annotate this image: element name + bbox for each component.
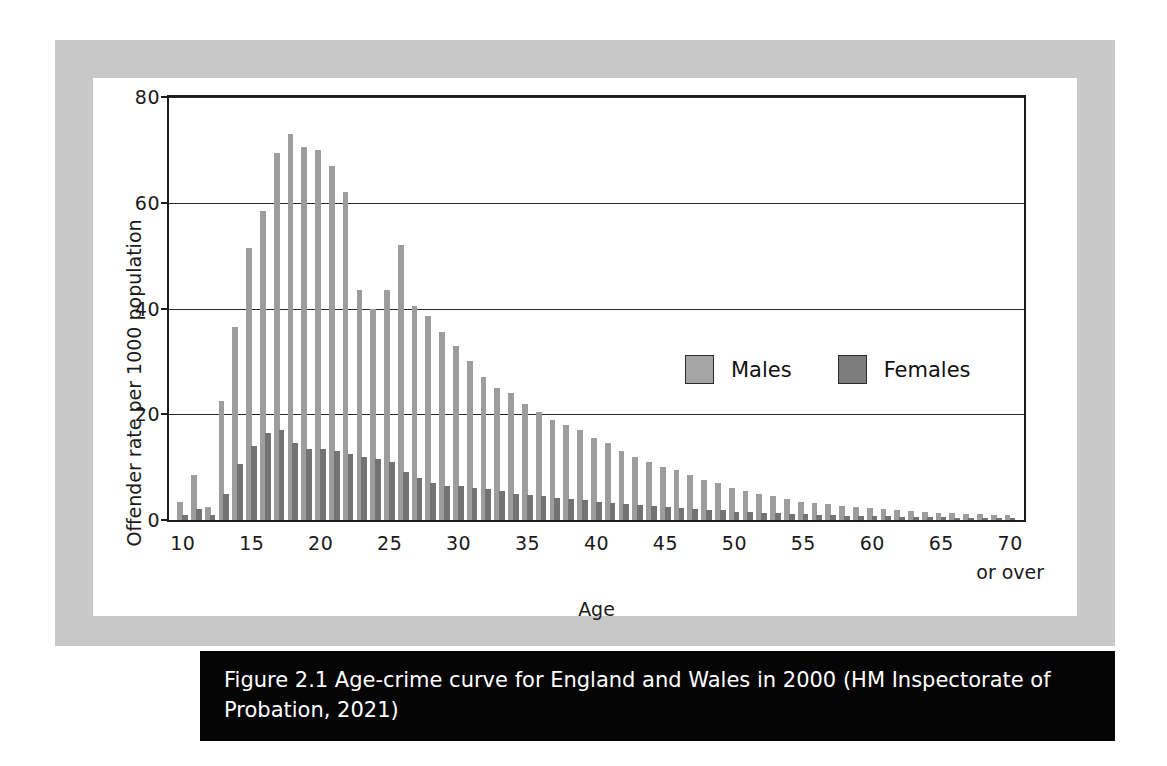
bar-females-age-42 xyxy=(623,504,629,520)
bar-females-age-56 xyxy=(816,515,822,520)
y-tick-mark-60 xyxy=(161,202,169,204)
bar-females-age-21 xyxy=(334,451,340,520)
x-tick-label-30: 30 xyxy=(446,532,471,554)
bar-females-age-57 xyxy=(830,515,836,520)
bar-females-age-62 xyxy=(899,517,905,520)
x-axis-over-note: or over xyxy=(976,561,1044,583)
bar-females-age-12 xyxy=(210,515,216,520)
gridline-80 xyxy=(169,97,1024,98)
bar-females-age-37 xyxy=(554,498,560,520)
gridline-40 xyxy=(169,309,1024,310)
bar-females-age-53 xyxy=(775,513,781,520)
legend-entry-females: Females xyxy=(838,355,971,384)
y-tick-label-20: 20 xyxy=(135,403,160,425)
bar-females-age-22 xyxy=(348,454,354,520)
bar-females-age-13 xyxy=(223,494,229,520)
x-tick-label-25: 25 xyxy=(377,532,402,554)
bar-females-age-14 xyxy=(237,464,243,520)
bar-females-age-31 xyxy=(472,488,478,520)
bar-females-age-43 xyxy=(637,505,643,520)
y-tick-mark-80 xyxy=(161,96,169,98)
y-tick-label-0: 0 xyxy=(147,509,160,531)
bar-females-age-49 xyxy=(720,510,726,520)
bar-females-age-60 xyxy=(872,516,878,520)
bar-females-age-64 xyxy=(927,517,933,520)
bar-females-age-26 xyxy=(403,472,409,520)
bar-females-age-61 xyxy=(885,516,891,520)
y-tick-label-60: 60 xyxy=(135,192,160,214)
bar-females-age-34 xyxy=(513,494,519,520)
x-tick-label-35: 35 xyxy=(515,532,540,554)
bar-females-age-36 xyxy=(541,496,547,520)
bar-females-age-51 xyxy=(747,512,753,520)
chart-canvas: Offender rate per 1000 population 020406… xyxy=(93,78,1077,616)
bar-females-age-52 xyxy=(761,513,767,520)
bar-females-age-15 xyxy=(251,446,257,520)
legend-label-females: Females xyxy=(884,358,971,382)
x-tick-label-45: 45 xyxy=(653,532,678,554)
bar-females-age-44 xyxy=(651,506,657,520)
bar-females-age-66 xyxy=(954,518,960,520)
x-tick-label-50: 50 xyxy=(722,532,747,554)
bar-females-age-27 xyxy=(417,478,423,520)
bar-females-age-68 xyxy=(982,518,988,520)
bar-females-age-38 xyxy=(568,499,574,520)
legend-swatch-males xyxy=(685,355,714,384)
x-tick-label-20: 20 xyxy=(308,532,333,554)
bar-females-age-70 xyxy=(1010,518,1016,520)
bar-females-age-65 xyxy=(941,517,947,520)
figure-frame: Offender rate per 1000 population 020406… xyxy=(55,40,1115,646)
bar-females-age-32 xyxy=(485,489,491,520)
x-axis-title: Age xyxy=(578,598,615,620)
x-tick-label-60: 60 xyxy=(860,532,885,554)
y-tick-label-80: 80 xyxy=(135,86,160,108)
plot-area: 020406080 10152025303540455055606570 or … xyxy=(167,95,1026,522)
bar-females-age-20 xyxy=(320,449,326,520)
x-tick-label-65: 65 xyxy=(929,532,954,554)
bar-females-age-63 xyxy=(913,517,919,520)
y-tick-mark-40 xyxy=(161,308,169,310)
bar-females-age-39 xyxy=(582,500,588,520)
bar-females-age-58 xyxy=(844,516,850,520)
x-tick-label-70: 70 xyxy=(998,532,1023,554)
x-tick-label-15: 15 xyxy=(239,532,264,554)
bar-females-age-50 xyxy=(734,512,740,520)
y-tick-label-40: 40 xyxy=(135,298,160,320)
y-tick-mark-0 xyxy=(161,519,169,521)
x-tick-label-10: 10 xyxy=(170,532,195,554)
y-axis-title: Offender rate per 1000 population xyxy=(123,173,145,593)
bar-females-age-48 xyxy=(706,510,712,520)
bar-females-age-55 xyxy=(803,514,809,520)
chart-legend: MalesFemales xyxy=(685,355,971,384)
bar-females-age-33 xyxy=(499,491,505,520)
bar-females-age-67 xyxy=(968,518,974,520)
x-tick-label-40: 40 xyxy=(584,532,609,554)
bar-females-age-17 xyxy=(279,430,285,520)
bar-females-age-25 xyxy=(389,462,395,520)
legend-entry-males: Males xyxy=(685,355,792,384)
bar-females-age-23 xyxy=(361,457,367,520)
figure-caption: Figure 2.1 Age-crime curve for England a… xyxy=(200,651,1115,741)
y-tick-mark-20 xyxy=(161,413,169,415)
bar-females-age-46 xyxy=(679,508,685,520)
bar-females-age-54 xyxy=(789,514,795,520)
figure-caption-text: Figure 2.1 Age-crime curve for England a… xyxy=(224,668,1051,722)
bar-females-age-10 xyxy=(182,515,188,520)
bar-females-age-19 xyxy=(306,449,312,520)
bar-females-age-59 xyxy=(858,516,864,520)
bar-females-age-30 xyxy=(458,486,464,520)
bar-females-age-47 xyxy=(692,509,698,520)
bar-females-age-40 xyxy=(596,502,602,521)
bar-females-age-29 xyxy=(444,486,450,520)
bar-females-age-16 xyxy=(265,433,271,520)
legend-swatch-females xyxy=(838,355,867,384)
bar-females-age-28 xyxy=(430,483,436,520)
bar-females-age-18 xyxy=(292,443,298,520)
legend-label-males: Males xyxy=(731,358,792,382)
x-tick-label-55: 55 xyxy=(791,532,816,554)
bar-females-age-11 xyxy=(196,509,202,520)
bar-females-age-41 xyxy=(610,503,616,520)
bar-females-age-24 xyxy=(375,459,381,520)
bar-females-age-69 xyxy=(996,518,1002,520)
bar-females-age-35 xyxy=(527,495,533,520)
